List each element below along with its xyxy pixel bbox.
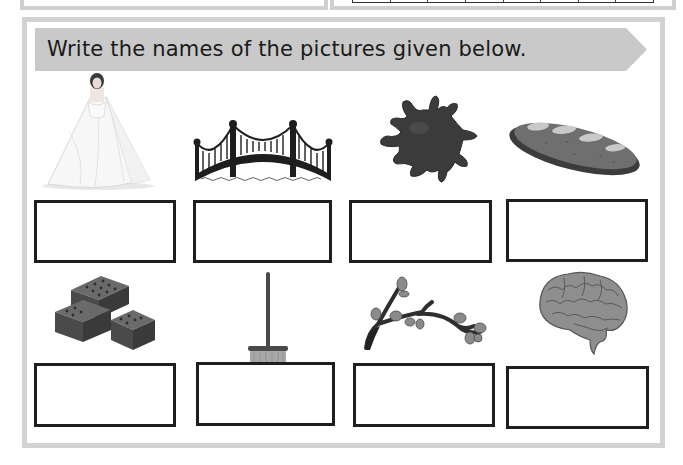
brain-icon: [534, 270, 630, 356]
answer-box-2[interactable]: [193, 200, 332, 263]
previous-panel-fragment-left: [20, 0, 328, 10]
answer-box-7[interactable]: [353, 363, 495, 427]
brain-picture: [534, 270, 630, 356]
bride-icon: [40, 72, 156, 192]
instruction-banner: Write the names of the pictures given be…: [35, 28, 647, 71]
bridge-icon: [193, 119, 333, 183]
bread-picture: [506, 116, 644, 180]
answer-box-3[interactable]: [349, 200, 492, 263]
bread-icon: [506, 116, 644, 180]
previous-panel-fragment-right: [330, 0, 676, 10]
ink-picture: [379, 90, 479, 188]
branch-picture: [362, 276, 492, 352]
broom-icon: [246, 272, 290, 364]
ink-blot-icon: [379, 90, 479, 188]
bricks-icon: [53, 272, 157, 350]
answer-box-5[interactable]: [34, 363, 176, 427]
bricks-picture: [53, 272, 157, 350]
answer-box-6[interactable]: [196, 362, 335, 426]
broom-picture: [246, 272, 290, 364]
answer-box-8[interactable]: [506, 366, 649, 429]
instruction-text: Write the names of the pictures given be…: [47, 37, 527, 61]
branch-icon: [362, 276, 492, 352]
answer-box-1[interactable]: [34, 200, 176, 263]
bride-picture: [40, 72, 156, 192]
previous-table-fragment: [352, 0, 654, 3]
answer-box-4[interactable]: [506, 199, 648, 262]
bridge-picture: [193, 119, 333, 183]
